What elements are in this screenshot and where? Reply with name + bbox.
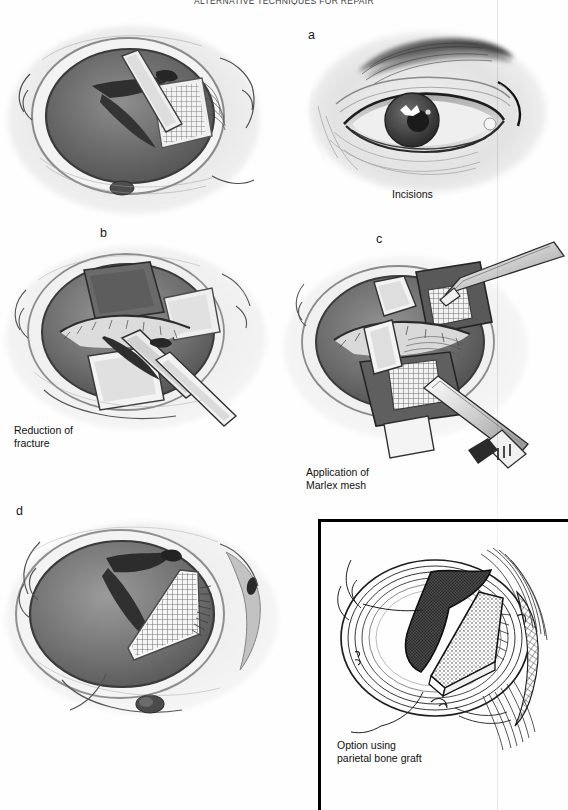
panel-b-letter: b: [100, 226, 107, 240]
panel-d: d: [2, 500, 292, 730]
orbit-overview-illustration: [6, 16, 276, 216]
panel-d-illustration: [2, 514, 292, 730]
infraorbital-nodule-d: [136, 695, 164, 713]
scan-seam-artifact: [497, 0, 498, 810]
panel-b-illustration: [4, 240, 284, 440]
panel-b-caption: Reduction of fracture: [14, 424, 73, 449]
upper-flap: [84, 262, 164, 322]
panel-a-illustration: [300, 20, 568, 190]
panel-top-left-orbit: [6, 16, 276, 216]
panel-e-caption: Option using parietal bone graft: [337, 739, 422, 764]
panel-c: c: [288, 230, 568, 490]
panel-c-caption: Application of Marlex mesh: [306, 466, 369, 491]
panel-e-illustration: [327, 530, 568, 760]
figure-page: ALTERNATIVE TECHNIQUES FOR REPAIR a: [0, 0, 568, 810]
panel-c-letter: c: [376, 232, 382, 246]
retractor-bottom: [384, 416, 434, 458]
panel-a-caption: Incisions: [392, 188, 433, 201]
iris: [385, 93, 439, 147]
panel-b: b: [4, 222, 284, 472]
panel-c-illustration: [288, 248, 568, 473]
panel-e: Option using parietal bone graft: [318, 519, 568, 810]
running-head: ALTERNATIVE TECHNIQUES FOR REPAIR: [0, 0, 568, 5]
panel-a: a: [300, 20, 568, 210]
